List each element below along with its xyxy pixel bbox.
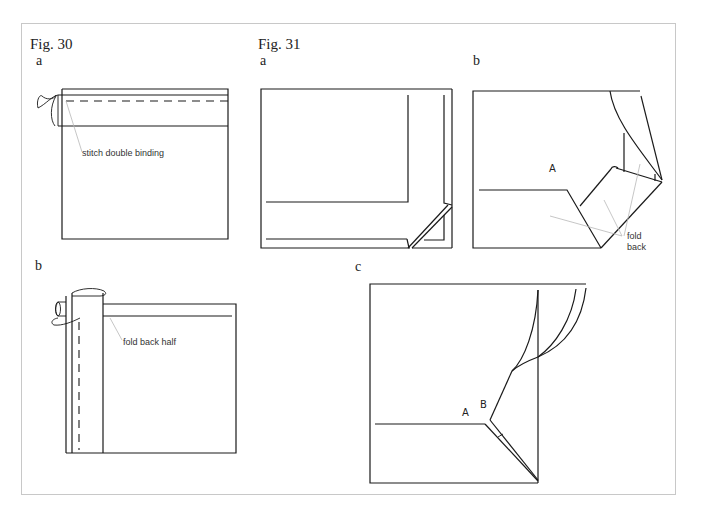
fig30a-drawing [37, 89, 228, 239]
fig31c-drawing [370, 284, 586, 483]
fig31b-drawing [473, 91, 662, 248]
diagram-drawings [0, 0, 712, 520]
fig30b-drawing [52, 289, 236, 453]
fig31a-drawing [261, 89, 452, 248]
